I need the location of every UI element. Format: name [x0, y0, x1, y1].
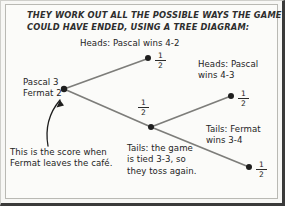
- probability-sub-bottom-branch: 1 2: [255, 161, 268, 178]
- fraction-denominator: 2: [154, 62, 167, 70]
- fraction-numerator: 1: [237, 90, 250, 98]
- annotation-text: This is the score when Fermat leaves the…: [10, 147, 112, 170]
- diagram-page: THEY WORK OUT ALL THE POSSIBLE WAYS THE …: [0, 0, 285, 206]
- node-heads-4-2: [145, 55, 151, 61]
- fraction-numerator: 1: [154, 52, 167, 60]
- probability-bottom-branch: 1 2: [137, 99, 150, 116]
- fraction-denominator: 2: [137, 109, 150, 117]
- node-heads-4-3: [228, 93, 234, 99]
- edge-root-to-heads-4-2: [64, 59, 148, 90]
- page-title: THEY WORK OUT ALL THE POSSIBLE WAYS THE …: [27, 9, 259, 33]
- node-root: [61, 86, 67, 92]
- fraction-denominator: 2: [237, 100, 250, 108]
- label-heads-4-2: Heads: Pascal wins 4-2: [80, 38, 179, 48]
- node-tails-tied: [148, 124, 154, 130]
- label-root-score: Pascal 3 Fermat 2: [23, 77, 62, 99]
- probability-top-branch: 1 2: [154, 52, 167, 69]
- fraction-denominator: 2: [255, 171, 268, 179]
- edge-tails-tied-to-heads-4-3: [151, 96, 231, 127]
- probability-sub-top-branch: 1 2: [237, 90, 250, 107]
- label-tails-tied: Tails: the game is tied 3-3, so they tos…: [127, 143, 197, 177]
- label-tails-3-4: Tails: Fermat wins 3-4: [206, 124, 261, 146]
- label-heads-4-3: Heads: Pascal wins 4-3: [198, 59, 258, 81]
- fraction-numerator: 1: [255, 161, 268, 169]
- fraction-numerator: 1: [137, 99, 150, 107]
- node-tails-3-4: [246, 164, 252, 170]
